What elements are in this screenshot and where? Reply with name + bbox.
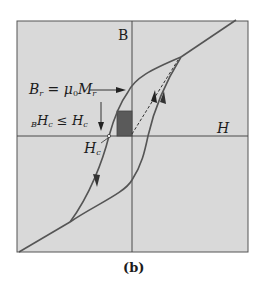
hc-point-main: H: [84, 140, 96, 156]
hc-point-label: Hc: [84, 140, 101, 157]
remanence-label: Br = μ0Mr: [29, 81, 96, 98]
coercivity-point: [107, 134, 110, 137]
bhc-main: H: [37, 113, 48, 128]
leq-sign: ≤: [53, 113, 72, 128]
mr-main: M: [78, 81, 92, 97]
hysteresis-diagram: [0, 0, 259, 283]
hc-main: H: [72, 113, 83, 128]
bh-rectangle: [117, 111, 132, 136]
b-axis-label: B: [118, 27, 128, 43]
mu: μ: [64, 81, 73, 97]
hc-point-sub: c: [96, 148, 100, 157]
br-main: B: [29, 81, 39, 97]
h-axis-label: H: [217, 120, 229, 136]
coercivity-relation-label: BHc ≤ Hc: [31, 113, 88, 129]
eq-sign: =: [43, 81, 64, 97]
hc-sub: c: [83, 120, 87, 129]
mr-sub: r: [92, 89, 96, 98]
panel-label: (b): [123, 260, 144, 275]
